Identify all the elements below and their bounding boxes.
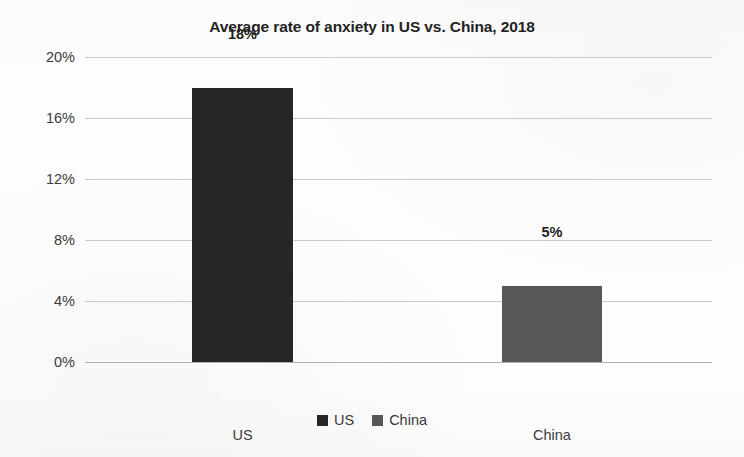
bar-us[interactable]	[192, 88, 293, 363]
gridline-8	[85, 240, 712, 241]
chart-legend: US China	[0, 412, 744, 428]
legend-label-us: US	[334, 412, 354, 428]
y-axis: 20% 16% 12% 8% 4% 0%	[17, 57, 75, 362]
y-tick-label-16: 16%	[17, 110, 75, 126]
legend-label-china: China	[389, 412, 427, 428]
chart-title: Average rate of anxiety in US vs. China,…	[0, 18, 744, 36]
gridline-12	[85, 179, 712, 180]
gridline-16	[85, 118, 712, 119]
plot-area: 18% 5% US China	[85, 57, 712, 362]
bar-chart: Average rate of anxiety in US vs. China,…	[0, 0, 744, 457]
y-tick-label-12: 12%	[17, 171, 75, 187]
bar-value-label-china: 5%	[492, 224, 612, 240]
gridline-4	[85, 301, 712, 302]
y-tick-label-20: 20%	[17, 49, 75, 65]
legend-item-us[interactable]: US	[317, 412, 354, 428]
bar-value-label-us: 18%	[183, 26, 303, 42]
y-tick-label-4: 4%	[17, 293, 75, 309]
legend-item-china[interactable]: China	[372, 412, 427, 428]
gridline-20	[85, 57, 712, 58]
legend-swatch-icon-china	[372, 415, 383, 426]
x-category-label-china: China	[472, 427, 632, 443]
y-tick-label-8: 8%	[17, 232, 75, 248]
x-category-label-us: US	[163, 427, 323, 443]
gridline-0-baseline	[85, 362, 712, 363]
legend-swatch-icon-us	[317, 415, 328, 426]
bar-china[interactable]	[502, 286, 602, 362]
y-tick-label-0: 0%	[17, 354, 75, 370]
